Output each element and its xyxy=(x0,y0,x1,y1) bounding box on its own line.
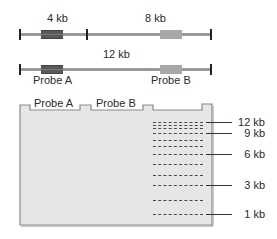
ladder-band xyxy=(153,175,203,176)
size-label-9kb: 9 kb xyxy=(225,127,265,139)
lane-label-probe-a: Probe A xyxy=(34,97,73,109)
ladder-band xyxy=(153,125,203,126)
size-label-1kb: 1 kb xyxy=(225,208,265,220)
ladder-band xyxy=(153,140,203,141)
ladder-band xyxy=(153,133,203,134)
ladder-band xyxy=(153,200,203,201)
size-label-3kb: 3 kb xyxy=(225,179,265,191)
size-label-6kb: 6 kb xyxy=(225,148,265,160)
ladder-band xyxy=(153,164,203,165)
ladder-band xyxy=(153,154,203,155)
ladder-band xyxy=(153,185,203,186)
ladder-band xyxy=(153,146,203,147)
lane-label-probe-b: Probe B xyxy=(96,97,136,109)
ladder-band xyxy=(153,214,203,215)
ladder-band xyxy=(153,128,203,129)
ladder-band xyxy=(153,122,203,123)
